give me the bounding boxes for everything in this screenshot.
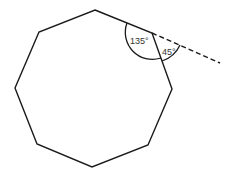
octagon-shape	[15, 10, 172, 167]
interior-angle-label: 135°	[130, 36, 149, 46]
octagon-diagram: 135° 45°	[0, 0, 229, 178]
exterior-angle-label: 45°	[162, 47, 176, 57]
